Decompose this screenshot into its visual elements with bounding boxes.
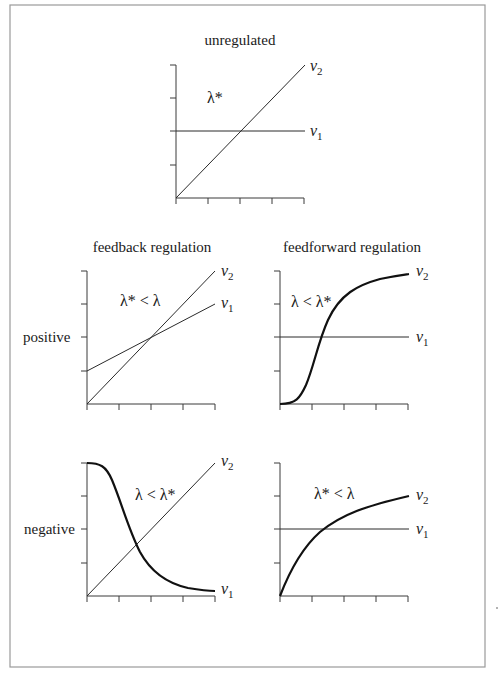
label-v2: v2 — [221, 262, 234, 282]
label-v2: v2 — [221, 452, 234, 472]
x-ticks — [87, 596, 215, 602]
x-ticks — [280, 596, 408, 602]
label-v1: v1 — [221, 294, 234, 314]
label-v1: v1 — [416, 328, 429, 348]
y-ticks — [81, 496, 87, 563]
y-ticks — [274, 304, 280, 371]
condition-label: λ* < λ — [120, 292, 161, 309]
y-ticks — [274, 496, 280, 563]
curve-v2 — [280, 496, 409, 596]
y-ticks — [170, 98, 176, 165]
y-ticks — [81, 304, 87, 371]
condition-label: λ < λ* — [291, 293, 332, 310]
label-v1: v1 — [221, 580, 234, 600]
title-feedback: feedback regulation — [93, 239, 212, 255]
condition-label: λ* < λ — [314, 485, 355, 502]
axes — [81, 271, 215, 404]
x-ticks — [87, 404, 215, 410]
panel-unregulated: λ* v2 v1 — [170, 57, 323, 204]
row-label-negative: negative — [24, 521, 75, 537]
panel-feedback-positive: λ* < λ v2 v1 — [81, 262, 234, 410]
label-v1: v1 — [416, 520, 429, 540]
x-ticks — [176, 198, 304, 204]
figure-frame — [10, 5, 485, 667]
panel-feedback-negative: λ < λ* v2 v1 — [81, 452, 234, 602]
figure-canvas: unregulated feedback regulation feedforw… — [0, 0, 499, 681]
condition-label: λ* — [207, 89, 223, 106]
label-v2: v2 — [416, 262, 429, 282]
curve-v1 — [87, 463, 215, 591]
row-label-positive: positive — [23, 329, 71, 345]
label-v1: v1 — [310, 122, 323, 142]
panel-feedforward-negative: λ* < λ v2 v1 — [274, 463, 429, 602]
title-feedforward: feedforward regulation — [283, 239, 421, 255]
axes — [81, 463, 215, 596]
label-v2: v2 — [416, 486, 429, 506]
title-unregulated: unregulated — [205, 32, 276, 48]
label-v2: v2 — [310, 57, 323, 77]
x-ticks — [280, 404, 408, 410]
line-v2 — [87, 463, 215, 596]
line-v2 — [87, 271, 215, 404]
panel-feedforward-positive: λ < λ* v2 v1 — [274, 262, 429, 410]
condition-label: λ < λ* — [135, 486, 176, 503]
